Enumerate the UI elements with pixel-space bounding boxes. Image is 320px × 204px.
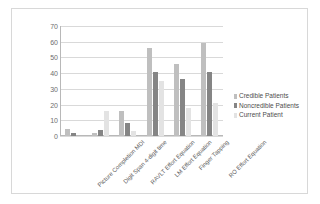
bar-group — [142, 26, 169, 136]
bar-groups-container — [60, 26, 223, 136]
bar — [119, 111, 124, 136]
plot-area — [60, 26, 223, 136]
bar — [180, 79, 185, 136]
bar — [147, 48, 152, 136]
bar — [153, 72, 158, 136]
bar — [131, 131, 136, 137]
legend-swatch-icon — [234, 113, 237, 118]
legend-swatch-icon — [234, 94, 237, 99]
bar — [207, 72, 212, 136]
y-axis-tick-labels: 010203040506070 — [36, 26, 58, 136]
bar-group — [60, 26, 87, 136]
legend-swatch-icon — [234, 103, 237, 108]
y-axis-tick-label: 60 — [50, 38, 58, 45]
legend-item-label: Current Patient — [239, 112, 283, 119]
legend-item[interactable]: Current Patient — [234, 112, 316, 119]
bar — [125, 123, 130, 136]
bar-group — [196, 26, 223, 136]
y-axis-tick-label: 40 — [50, 70, 58, 77]
legend-item-label: Noncredible Patients — [239, 103, 299, 110]
bar-group — [87, 26, 114, 136]
legend-item[interactable]: Noncredible Patients — [234, 103, 316, 110]
bar — [98, 130, 103, 136]
bar — [159, 81, 164, 136]
bar — [104, 111, 109, 136]
bar — [174, 64, 179, 136]
bar-group — [169, 26, 196, 136]
legend-item-label: Credible Patients — [239, 93, 289, 100]
bar-group — [114, 26, 141, 136]
y-axis-tick-label: 70 — [50, 23, 58, 30]
y-axis-tick-label: 0 — [54, 133, 58, 140]
x-axis-category-labels: Picture Completion MDIDigit Span 4-digit… — [60, 137, 223, 193]
y-axis-tick-label: 10 — [50, 117, 58, 124]
legend-item[interactable]: Credible Patients — [234, 93, 316, 100]
x-axis-category-label: RO Effort Equation — [228, 139, 268, 179]
y-axis-tick-label: 50 — [50, 54, 58, 61]
bar — [213, 103, 218, 136]
y-axis-tick-label: 20 — [50, 101, 58, 108]
bar — [71, 133, 76, 136]
bar — [201, 43, 206, 136]
chart-frame: 010203040506070 Picture Completion MDIDi… — [11, 8, 308, 194]
y-axis-tick-label: 30 — [50, 85, 58, 92]
chart-legend: Credible PatientsNoncredible PatientsCur… — [234, 93, 316, 122]
bar — [92, 133, 97, 136]
bar — [65, 129, 70, 136]
bar — [186, 108, 191, 136]
